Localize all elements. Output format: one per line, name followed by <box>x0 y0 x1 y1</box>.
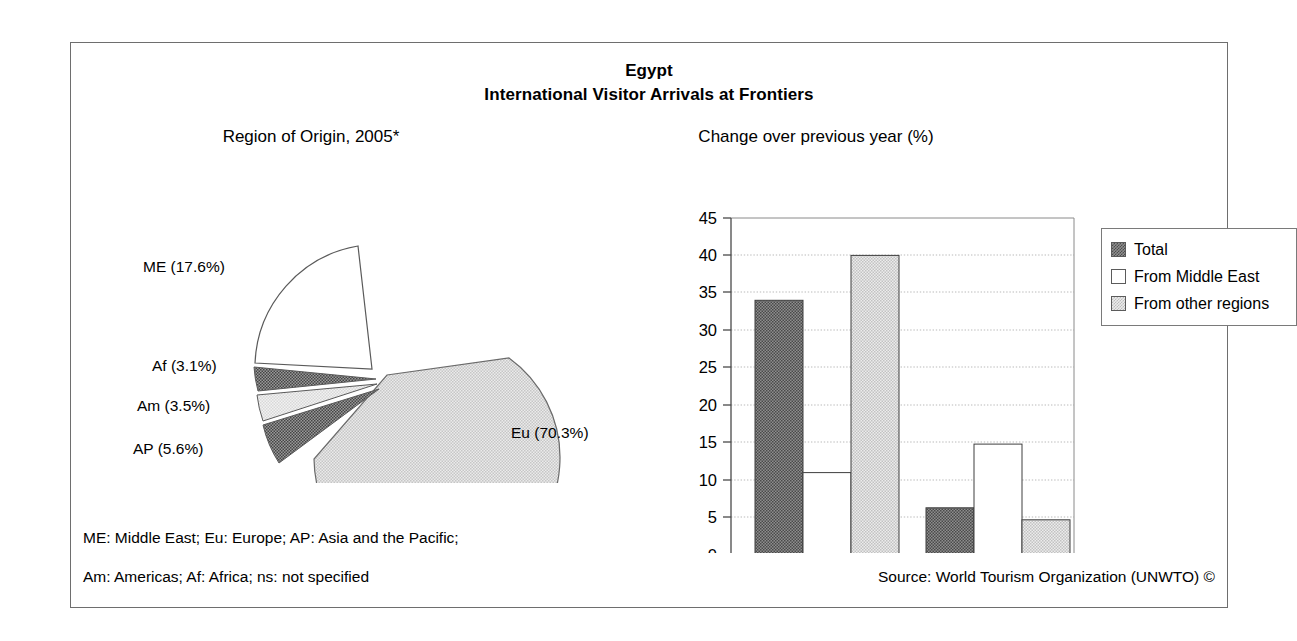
legend-item-middle-east: From Middle East <box>1111 263 1288 290</box>
pie-chart-panel: ME (17.6%) Af (3.1%) Am (3.5%) AP (5.6%)… <box>71 153 641 483</box>
pie-label-eu: Eu (70.3%) <box>511 425 589 441</box>
legend-label-other-regions: From other regions <box>1134 295 1269 313</box>
legend-label-middle-east: From Middle East <box>1134 268 1259 286</box>
legend-item-total: Total <box>1111 236 1288 263</box>
bar-chart-svg: 0 5 10 15 20 25 30 35 40 45 2004 <box>631 153 1231 553</box>
footnote-abbreviations-line-1: ME: Middle East; Eu: Europe; AP: Asia an… <box>83 529 459 547</box>
y-tick-35: 35 <box>699 283 717 301</box>
pie-label-me: ME (17.6%) <box>143 259 225 275</box>
bar-chart-panel: 0 5 10 15 20 25 30 35 40 45 2004 <box>631 153 1231 553</box>
y-tick-25: 25 <box>699 358 717 376</box>
chart-subtitle: International Visitor Arrivals at Fronti… <box>71 85 1227 105</box>
source-attribution: Source: World Tourism Organization (UNWT… <box>878 568 1215 586</box>
pie-slice-me <box>255 246 372 369</box>
bar-2004-2003-middle-east <box>803 473 851 553</box>
light-hatch-swatch-icon <box>1111 296 1126 311</box>
bar-2004-2003-total <box>755 300 803 553</box>
y-tick-30: 30 <box>699 321 717 339</box>
pie-label-af: Af (3.1%) <box>152 358 217 374</box>
y-tick-40: 40 <box>699 246 717 264</box>
figure-frame: Egypt International Visitor Arrivals at … <box>70 42 1228 608</box>
bar-2005-2004-middle-east <box>974 444 1022 553</box>
y-tick-15: 15 <box>699 433 717 451</box>
dark-hatch-swatch-icon <box>1111 242 1126 257</box>
chart-title: Egypt <box>71 61 1227 81</box>
footnote-abbreviations-line-2: Am: Americas; Af: Africa; ns: not specif… <box>83 568 369 586</box>
y-tick-5: 5 <box>708 508 717 526</box>
bar-2004-2003-other-regions <box>851 255 899 553</box>
y-tick-45: 45 <box>699 209 717 227</box>
pie-label-am: Am (3.5%) <box>137 398 210 414</box>
legend-item-other-regions: From other regions <box>1111 290 1288 317</box>
pie-label-ap: AP (5.6%) <box>133 441 203 457</box>
y-tick-10: 10 <box>699 471 717 489</box>
y-axis-ticks <box>723 218 731 553</box>
y-tick-20: 20 <box>699 396 717 414</box>
bar-chart-heading: Change over previous year (%) <box>601 127 1031 147</box>
y-tick-0: 0 <box>708 546 717 553</box>
white-swatch-icon <box>1111 269 1126 284</box>
legend-label-total: Total <box>1134 241 1168 259</box>
bar-2005-2004-other-regions <box>1022 520 1070 553</box>
pie-chart-heading: Region of Origin, 2005* <box>161 127 461 147</box>
bar-2005-2004-total <box>926 508 974 553</box>
bar-chart-legend: Total From Middle East From other region… <box>1101 228 1297 326</box>
